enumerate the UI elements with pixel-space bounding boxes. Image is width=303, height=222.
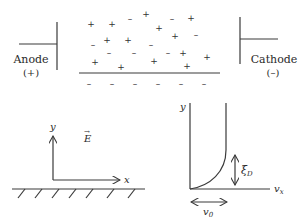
x-axis-label: x xyxy=(124,174,130,185)
positive-ion: + xyxy=(183,61,191,71)
negative-ion: – xyxy=(166,48,171,58)
positive-ion: + xyxy=(155,23,163,33)
positive-ion: + xyxy=(142,9,150,19)
velocity-profile-curve xyxy=(190,103,226,189)
positive-ion: + xyxy=(171,31,179,41)
anode-label: Anode xyxy=(12,53,48,66)
debye-length-label: ξD xyxy=(241,164,253,178)
profile-y-label: y xyxy=(179,101,186,112)
positive-ion: + xyxy=(150,56,158,66)
negative-ion: – xyxy=(91,40,96,50)
vector-arrow-icon: → xyxy=(84,128,90,136)
negative-ion: – xyxy=(132,48,137,58)
ground-surface xyxy=(12,189,145,198)
ion-cloud: ++–++–++++––––––++++++ xyxy=(87,9,211,72)
positive-ion: + xyxy=(179,48,187,58)
positive-ion: + xyxy=(108,19,116,29)
negative-ion: – xyxy=(128,14,133,24)
positive-ion: + xyxy=(187,13,195,23)
surface-negative-charge: – xyxy=(156,79,161,89)
negative-ion: – xyxy=(194,30,199,40)
positive-ion: + xyxy=(103,35,111,45)
surface-negative-charge: – xyxy=(110,79,115,89)
surface-negative-charge: – xyxy=(202,79,207,89)
velocity-profile-axes xyxy=(190,103,270,189)
y-axis-label: y xyxy=(49,121,56,132)
positive-ion: + xyxy=(124,35,132,45)
negative-ion: – xyxy=(170,14,175,24)
positive-ion: + xyxy=(203,52,211,62)
surface-negative-charge: – xyxy=(87,79,92,89)
electroosmosis-diagram: Anode (+) Cathode (–) ++–++–++++––––––++… xyxy=(0,0,303,222)
profile-x-label: vx xyxy=(274,183,284,196)
surface-negative-charge: – xyxy=(179,79,184,89)
cathode-label: Cathode xyxy=(251,53,298,66)
positive-ion: + xyxy=(117,62,125,72)
positive-ion: + xyxy=(91,57,99,67)
anode-sign: (+) xyxy=(23,67,39,78)
negative-ion: – xyxy=(107,48,112,58)
slip-velocity-label: v0 xyxy=(203,206,214,219)
cathode-sign: (–) xyxy=(267,67,280,78)
positive-ion: + xyxy=(87,19,95,29)
surface-charges: –––––– xyxy=(87,79,207,89)
surface-negative-charge: – xyxy=(133,79,138,89)
negative-ion: – xyxy=(149,40,154,50)
